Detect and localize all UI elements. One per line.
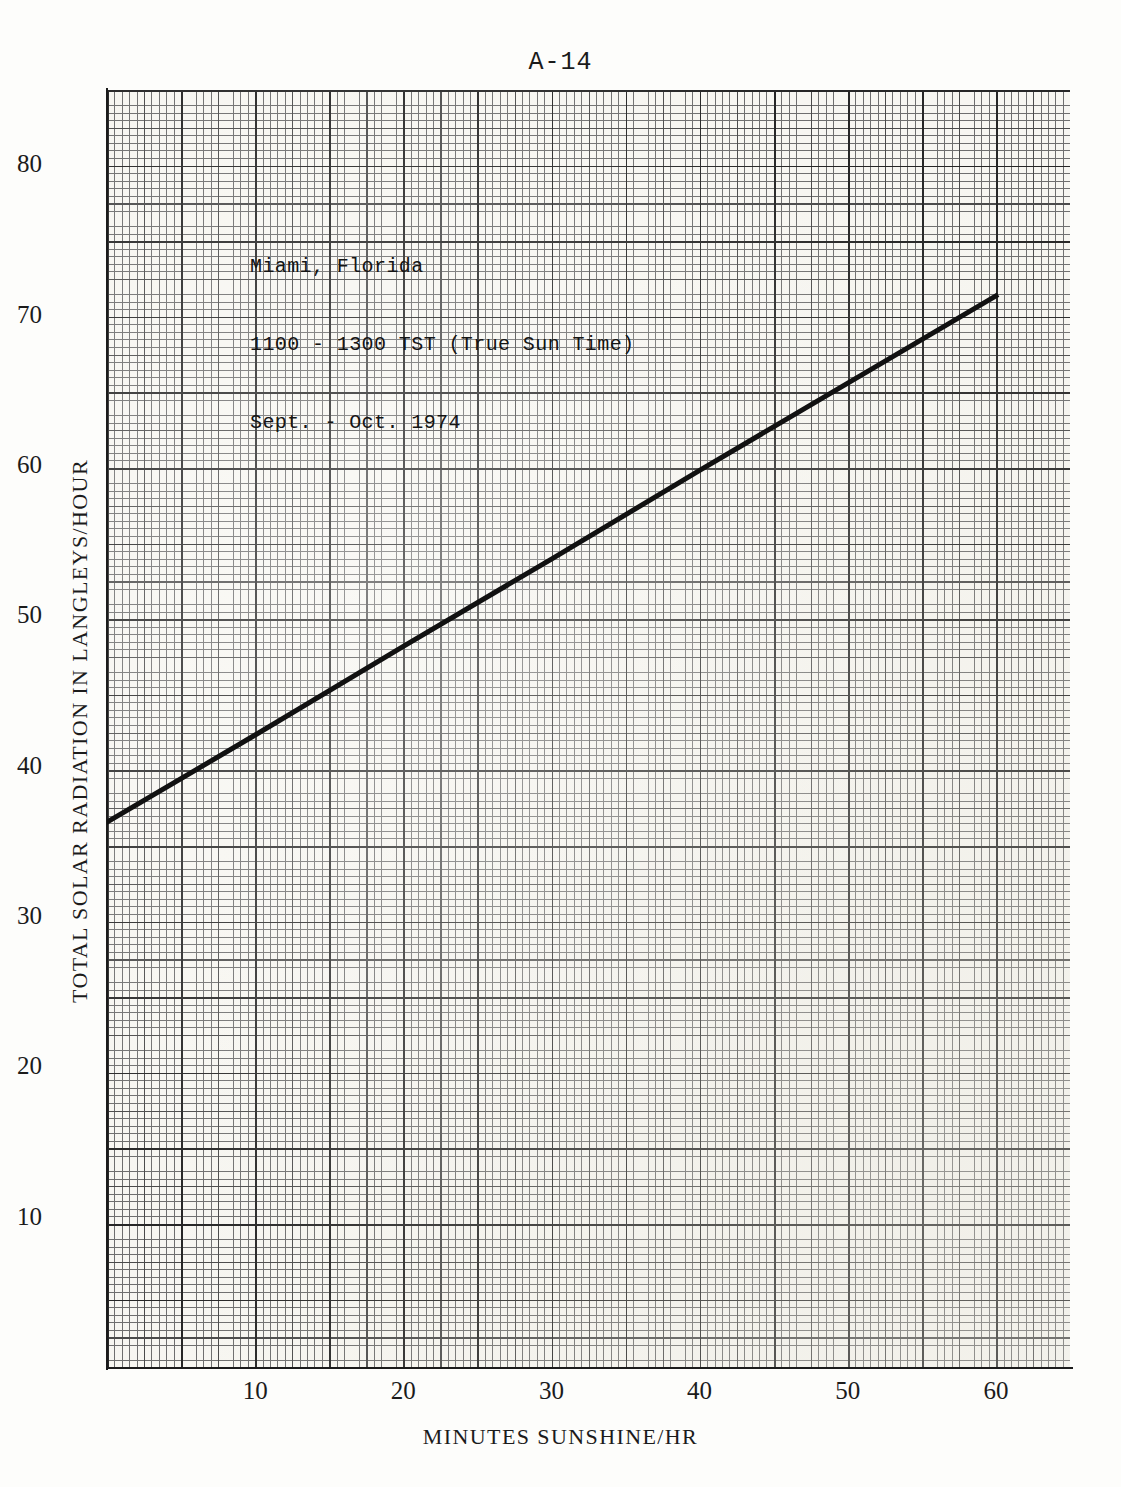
y-tick-label: 10 bbox=[0, 1203, 42, 1231]
y-tick-label: 40 bbox=[0, 752, 42, 780]
chart-annotation-block: Miami, Florida 1100 - 1300 TST (True Sun… bbox=[250, 202, 634, 488]
annotation-line-time: 1100 - 1300 TST (True Sun Time) bbox=[250, 332, 634, 358]
annotation-line-period: Sept. - Oct. 1974 bbox=[250, 410, 634, 436]
x-axis-title: MINUTES SUNSHINE/HR bbox=[0, 1424, 1121, 1450]
page-number: A-14 bbox=[0, 48, 1121, 77]
x-tick-label: 10 bbox=[220, 1377, 290, 1405]
y-tick-label: 70 bbox=[0, 301, 42, 329]
y-tick-label: 80 bbox=[0, 150, 42, 178]
x-tick-label: 40 bbox=[665, 1377, 735, 1405]
x-tick-label: 30 bbox=[516, 1377, 586, 1405]
y-tick-label: 30 bbox=[0, 902, 42, 930]
x-tick-label: 20 bbox=[368, 1377, 438, 1405]
y-tick-label: 60 bbox=[0, 451, 42, 479]
y-axis-title: TOTAL SOLAR RADIATION IN LANGLEYS/HOUR bbox=[67, 351, 93, 1111]
y-tick-label: 50 bbox=[0, 601, 42, 629]
x-tick-label: 60 bbox=[961, 1377, 1031, 1405]
chart-page: A-14 1020304050607080 102030405060 TOTAL… bbox=[0, 0, 1121, 1487]
y-tick-label: 20 bbox=[0, 1052, 42, 1080]
annotation-line-location: Miami, Florida bbox=[250, 254, 634, 280]
x-tick-label: 50 bbox=[813, 1377, 883, 1405]
